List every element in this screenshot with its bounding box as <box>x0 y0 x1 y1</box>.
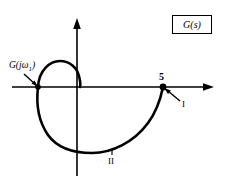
gjw1-label-main: G(jω <box>9 60 28 70</box>
nyquist-plot-figure: G(s) G(jω1) 5 I II <box>0 0 225 182</box>
gs-locus-curve <box>37 61 163 153</box>
region-one-label: I <box>182 100 185 109</box>
gjw1-label: G(jω1) <box>9 61 35 73</box>
real-axis <box>12 83 214 91</box>
transfer-function-box: G(s) <box>172 15 212 34</box>
gjw1-label-close: ) <box>32 60 35 70</box>
point-value-label: 5 <box>159 72 164 82</box>
region-one-leader-arrow <box>164 88 180 101</box>
gjw-leader-arrow <box>24 74 38 87</box>
region-two-label: II <box>108 157 114 166</box>
transfer-function-label: G(s) <box>183 19 201 30</box>
